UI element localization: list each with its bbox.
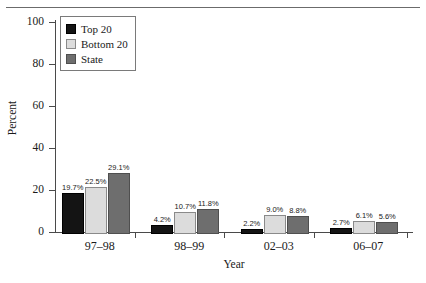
bar-value-label: 10.7% [175, 202, 196, 211]
y-axis-tick [49, 232, 55, 233]
bar-value-label: 5.6% [379, 212, 396, 221]
bar-value-label: 11.8% [198, 199, 219, 208]
bar-state: 8.8% [287, 22, 309, 234]
bar-bottom-20: 6.1% [353, 22, 375, 234]
x-axis-tick [135, 233, 136, 238]
y-axis-tick [49, 22, 55, 23]
legend-label-state: State [81, 53, 103, 65]
bar-rect [241, 229, 263, 234]
y-axis-tick [49, 190, 55, 191]
y-axis-line [55, 20, 56, 233]
y-axis-title: Percent [6, 83, 18, 153]
bar-rect [330, 228, 352, 234]
bar-value-label: 29.1% [108, 163, 129, 172]
bar-rect [353, 221, 375, 234]
x-axis-tick [314, 233, 315, 238]
bar-value-label: 9.0% [266, 205, 283, 214]
legend-item-bottom-20: Bottom 20 [66, 36, 128, 51]
bar-top-20: 2.2% [241, 22, 263, 234]
bar-rect [108, 173, 130, 234]
bar-value-label: 2.2% [243, 219, 260, 228]
x-axis-tick-label: 06–07 [324, 239, 414, 254]
bar-bottom-20: 10.7% [174, 22, 196, 234]
legend-label-top-20: Top 20 [81, 23, 112, 35]
bar-rect [197, 209, 219, 234]
bar-state: 11.8% [197, 22, 219, 234]
x-axis-tick-label: 97–98 [55, 239, 145, 254]
legend-swatch-bottom-20 [66, 39, 76, 49]
x-axis-tick [224, 233, 225, 238]
bar-value-label: 8.8% [289, 206, 306, 215]
bar-value-label: 22.5% [85, 177, 106, 186]
legend-label-bottom-20: Bottom 20 [81, 38, 128, 50]
chart-legend: Top 20 Bottom 20 State [60, 16, 136, 71]
x-axis-title: Year [55, 258, 413, 270]
y-axis-tick [49, 106, 55, 107]
bar-value-label: 6.1% [356, 211, 373, 220]
bar-rect [174, 212, 196, 234]
legend-swatch-top-20 [66, 24, 76, 34]
bar-rect [287, 216, 309, 234]
bar-bottom-20: 9.0% [264, 22, 286, 234]
y-axis-tick-label: 20 [0, 184, 44, 196]
y-axis-tick [49, 64, 55, 65]
x-axis-end-tick [407, 233, 408, 238]
y-axis-tick-label: 100 [0, 16, 44, 28]
legend-swatch-state [66, 54, 76, 64]
y-axis-tick-label: 0 [0, 226, 44, 238]
y-axis-tick-label: 80 [0, 58, 44, 70]
legend-item-state: State [66, 51, 128, 66]
x-axis-tick-label: 02–03 [234, 239, 324, 254]
bar-rect [62, 193, 84, 234]
bar-rect [264, 215, 286, 234]
bar-rect [151, 225, 173, 234]
bar-rect [85, 187, 107, 234]
bar-rect [376, 222, 398, 234]
y-axis-tick [49, 148, 55, 149]
bar-value-label: 2.7% [333, 218, 350, 227]
bar-top-20: 2.7% [330, 22, 352, 234]
grouped-bar-chart: 020406080100 Percent Year 19.7%22.5%29.1… [0, 0, 426, 283]
bar-value-label: 4.2% [154, 215, 171, 224]
bar-state: 5.6% [376, 22, 398, 234]
x-axis-tick-label: 98–99 [145, 239, 235, 254]
bar-top-20: 4.2% [151, 22, 173, 234]
bar-value-label: 19.7% [62, 183, 83, 192]
legend-item-top-20: Top 20 [66, 21, 128, 36]
